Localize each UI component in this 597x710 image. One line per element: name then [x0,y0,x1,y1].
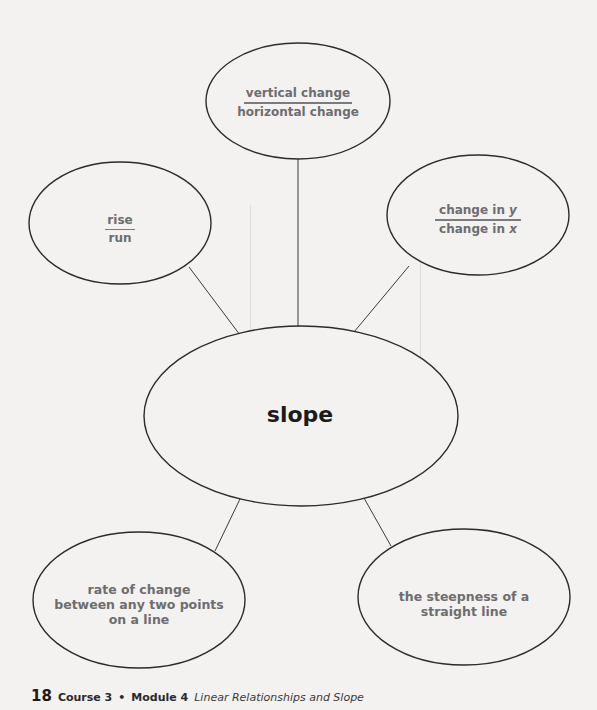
numerator-text: change in [439,203,509,217]
fraction-numerator: rise [105,213,134,230]
course-label: Course 3 [58,691,112,704]
fraction-denominator: change in x [439,221,517,237]
fraction-numerator: vertical change [244,86,352,104]
fraction-numerator: change in y [435,203,521,221]
fraction-denominator: run [108,230,131,246]
connector-bottom-right [364,498,391,546]
page-number: 18 [31,687,52,705]
node-text-line: between any two points [54,597,224,612]
module-label: Module 4 [131,691,188,704]
node-top-label: vertical change horizontal change [218,86,378,120]
denominator-text: change in [439,222,509,236]
node-text-line: the steepness of a [384,589,544,604]
textbook-page: vertical change horizontal change rise r… [0,0,597,710]
footer-separator: • [118,691,125,704]
fraction-denominator: horizontal change [237,104,359,120]
node-text-line: on a line [54,612,224,627]
fraction: change in y change in x [435,203,521,237]
fraction: rise run [105,213,134,246]
connector-right [349,266,409,338]
node-text-line: rate of change [54,582,224,597]
node-text-line: straight line [384,604,544,619]
variable-y: y [509,203,517,217]
connector-left [189,267,243,339]
node-right-label: change in y change in x [418,203,538,237]
module-title: Linear Relationships and Slope [194,691,364,704]
node-bottom-left-label: rate of change between any two points on… [54,582,224,627]
node-center-label: slope [240,402,360,427]
node-left-label: rise run [90,213,150,246]
variable-x: x [509,222,517,236]
page-footer: 18 Course 3 • Module 4 Linear Relationsh… [31,687,364,705]
connector-bottom-left [215,499,240,551]
node-bottom-right-label: the steepness of a straight line [384,589,544,619]
fraction: vertical change horizontal change [237,86,359,120]
